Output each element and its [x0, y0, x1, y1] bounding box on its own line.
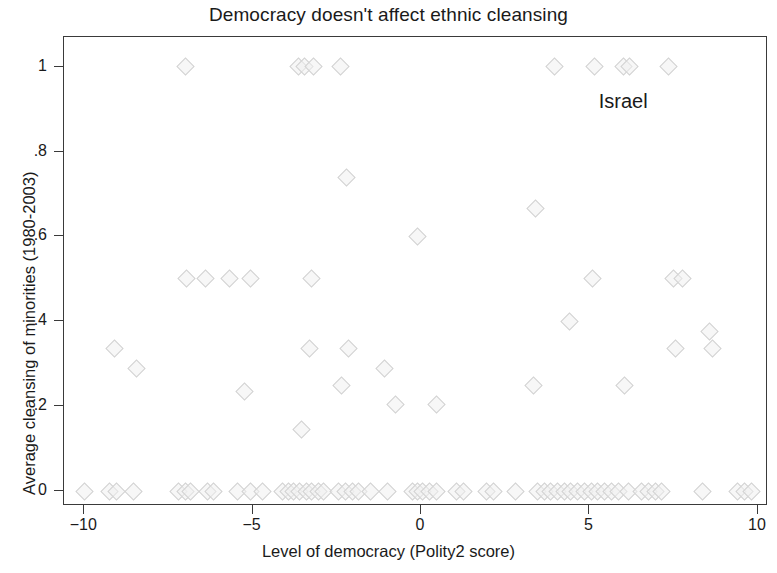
- scatter-point: [700, 323, 718, 341]
- scatter-point: [427, 395, 445, 413]
- y-tick-mark: [54, 405, 63, 406]
- scatter-point: [585, 58, 603, 76]
- scatter-point: [127, 359, 145, 377]
- scatter-point: [375, 359, 393, 377]
- x-tick-mark: [588, 505, 589, 514]
- scatter-point: [331, 58, 349, 76]
- x-tick-mark: [757, 505, 758, 514]
- scatter-point: [178, 270, 196, 288]
- scatter-point: [408, 227, 426, 245]
- y-tick-label: .6: [34, 226, 47, 244]
- y-tick-label: .8: [34, 142, 47, 160]
- scatter-point: [176, 58, 194, 76]
- scatter-point: [339, 340, 357, 358]
- y-tick-label: 1: [38, 57, 47, 75]
- scatter-point: [254, 482, 272, 500]
- x-axis-label: Level of democracy (Polity2 score): [0, 542, 777, 561]
- scatter-point: [616, 376, 634, 394]
- x-tick-mark: [420, 505, 421, 514]
- y-tick-mark: [54, 320, 63, 321]
- scatter-point: [235, 382, 253, 400]
- x-tick-label: 5: [584, 516, 593, 534]
- scatter-point: [333, 376, 351, 394]
- scatter-point: [75, 482, 93, 500]
- scatter-point: [659, 58, 677, 76]
- scatter-point: [292, 420, 310, 438]
- chart-screenshot: Democracy doesn't affect ethnic cleansin…: [0, 0, 777, 573]
- scatter-point: [301, 340, 319, 358]
- scatter-point: [105, 340, 123, 358]
- scatter-point: [338, 168, 356, 186]
- y-tick-mark: [54, 151, 63, 152]
- y-tick-label: .4: [34, 311, 47, 329]
- scatter-point: [242, 270, 260, 288]
- scatter-point: [124, 482, 142, 500]
- x-tick-label: 10: [748, 516, 766, 534]
- plot-area: Israel: [63, 36, 767, 505]
- y-tick-label: .2: [34, 396, 47, 414]
- scatter-point: [693, 482, 711, 500]
- y-tick-mark: [54, 66, 63, 67]
- point-annotation: Israel: [599, 89, 648, 112]
- chart-title: Democracy doesn't affect ethnic cleansin…: [0, 4, 777, 26]
- y-tick-mark: [54, 490, 63, 491]
- scatter-point: [387, 395, 405, 413]
- x-tick-label: 0: [416, 516, 425, 534]
- scatter-point: [584, 270, 602, 288]
- scatter-point: [506, 482, 524, 500]
- scatter-point: [196, 270, 214, 288]
- scatter-point: [378, 482, 396, 500]
- x-tick-label: −10: [70, 516, 97, 534]
- scatter-point: [560, 312, 578, 330]
- scatter-point: [525, 376, 543, 394]
- scatter-point: [302, 270, 320, 288]
- x-tick-label: −5: [243, 516, 261, 534]
- y-tick-label: 0: [38, 481, 47, 499]
- x-tick-mark: [83, 505, 84, 514]
- scatter-point: [703, 340, 721, 358]
- scatter-points-layer: [64, 37, 766, 504]
- y-tick-mark: [54, 235, 63, 236]
- scatter-point: [220, 270, 238, 288]
- scatter-point: [666, 340, 684, 358]
- scatter-point: [526, 200, 544, 218]
- x-tick-mark: [252, 505, 253, 514]
- scatter-point: [545, 58, 563, 76]
- y-axis-label: Average cleansing of minorities (1980-20…: [20, 172, 39, 495]
